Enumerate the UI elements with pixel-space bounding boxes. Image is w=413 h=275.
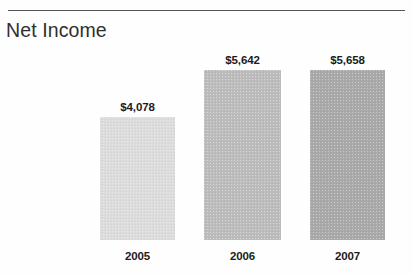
- category-label-2005: 2005: [100, 251, 175, 263]
- bar-2007: [310, 70, 385, 240]
- category-label-2006: 2006: [204, 251, 281, 263]
- bar-2005: [100, 117, 175, 240]
- category-label-2007: 2007: [310, 251, 385, 263]
- bar-2006: [204, 70, 281, 240]
- bar-value-label-2007: $5,658: [310, 55, 385, 67]
- plot-area: $4,078 2005 $5,642 2006 $5,658 2007: [0, 0, 413, 275]
- bar-value-label-2006: $5,642: [204, 55, 281, 67]
- net-income-figure: Net Income $4,078 2005 $5,642 2006 $5,65…: [0, 0, 413, 275]
- bar-value-label-2005: $4,078: [100, 102, 175, 114]
